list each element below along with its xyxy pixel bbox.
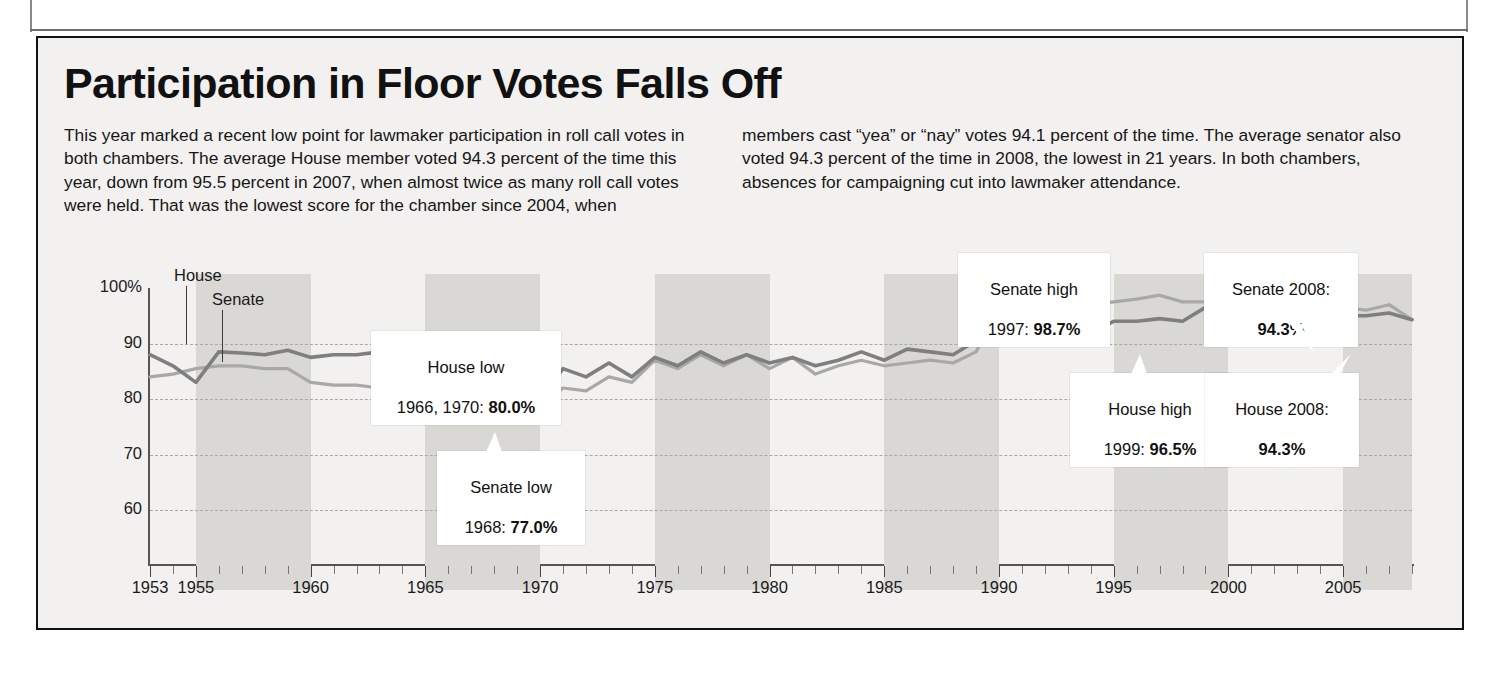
callout-house-2008-value: 94.3% [1259,440,1306,458]
x-tick-1999 [1205,566,1206,574]
callout-house-low: House low 1966, 1970: 80.0% [371,331,561,425]
x-tick-2007 [1389,566,1390,574]
x-tick-1989 [976,566,977,574]
x-tick-1969 [517,566,518,574]
x-tick-1977 [701,566,702,574]
x-tick-2008 [1412,566,1413,574]
x-tick-1970 [540,566,541,577]
x-tick-2004 [1320,566,1321,574]
callout-house-low-line2-prefix: 1966, 1970: [397,398,489,416]
x-label-1995: 1995 [1095,578,1132,597]
x-tick-1973 [609,566,610,574]
x-label-1970: 1970 [522,578,559,597]
y-tick-80: 80 [124,388,142,407]
callout-senate-low-line2-prefix: 1968: [465,518,511,536]
x-tick-1975 [655,566,656,577]
y-tick-70: 70 [124,444,142,463]
x-label-2000: 2000 [1210,578,1247,597]
x-tick-1991 [1022,566,1023,574]
x-tick-1988 [953,566,954,574]
page-left-rule [30,0,32,32]
callout-house-high-value: 96.5% [1150,440,1197,458]
x-tick-1987 [930,566,931,574]
x-tick-1953 [150,566,151,577]
x-tick-2002 [1274,566,1275,574]
x-tick-1982 [815,566,816,574]
x-tick-1978 [724,566,725,574]
x-tick-1967 [471,566,472,574]
callout-house-2008-line1: House 2008: [1235,400,1329,418]
callout-senate-high: Senate high 1997: 98.7% [958,253,1110,347]
y-tick-90: 90 [124,333,142,352]
callout-senate-low: Senate low 1968: 77.0% [437,451,585,545]
x-tick-1960 [311,566,312,577]
x-tick-1965 [425,566,426,577]
x-tick-1997 [1160,566,1161,574]
callout-senate-low-value: 77.0% [511,518,558,536]
x-tick-1990 [999,566,1000,577]
x-tick-1954 [173,566,174,574]
callout-house-low-line1: House low [427,358,504,376]
x-label-1955: 1955 [178,578,215,597]
x-tick-1955 [196,566,197,577]
callout-senate-high-tail [1019,307,1035,327]
x-tick-1968 [494,566,495,574]
x-tick-1976 [678,566,679,574]
x-tick-1993 [1068,566,1069,574]
x-label-1980: 1980 [751,578,788,597]
x-tick-2005 [1343,566,1344,577]
graphic-frame: Participation in Floor Votes Falls Off T… [36,36,1464,630]
page-top-rule [30,29,1468,31]
deck-paragraph-left: This year marked a recent low point for … [64,124,704,217]
x-label-2005: 2005 [1325,578,1362,597]
x-tick-1961 [334,566,335,574]
x-tick-2006 [1366,566,1367,574]
x-tick-2003 [1297,566,1298,574]
deck-paragraph-right: members cast “yea” or “nay” votes 94.1 p… [742,124,1402,194]
callout-senate-high-value: 98.7% [1034,320,1081,338]
callout-senate-low-line1: Senate low [470,478,552,496]
x-tick-2001 [1251,566,1252,574]
x-tick-1995 [1114,566,1115,577]
x-tick-1985 [884,566,885,577]
x-tick-1959 [288,566,289,574]
x-tick-1998 [1183,566,1184,574]
page-right-rule [1466,0,1468,32]
x-tick-1966 [448,566,449,574]
callout-senate-2008-tail [1274,305,1320,355]
x-tick-1964 [402,566,403,574]
x-tick-1980 [770,566,771,577]
house-leader-line [186,286,187,344]
x-tick-1958 [265,566,266,574]
x-tick-1984 [861,566,862,574]
x-tick-1992 [1045,566,1046,574]
x-label-1953: 1953 [132,578,169,597]
callout-house-high-tail [1131,354,1147,374]
series-label-house: House [174,266,222,285]
x-tick-1956 [219,566,220,574]
x-label-1960: 1960 [292,578,329,597]
x-tick-1963 [379,566,380,574]
x-tick-1974 [632,566,633,574]
x-label-1965: 1965 [407,578,444,597]
x-label-1985: 1985 [866,578,903,597]
x-tick-2000 [1228,566,1229,577]
callout-house-high-line2-prefix: 1999: [1104,440,1150,458]
series-label-senate: Senate [212,290,264,309]
x-tick-1971 [563,566,564,574]
x-label-1975: 1975 [636,578,673,597]
callout-senate-high-line1: Senate high [990,280,1078,298]
callout-house-high-line1: House high [1108,400,1191,418]
infographic-page: Participation in Floor Votes Falls Off T… [0,0,1497,674]
x-tick-1972 [586,566,587,574]
callout-house-low-tail [446,385,462,405]
callout-senate-2008-line1: Senate 2008: [1232,280,1330,298]
y-tick-60: 60 [124,499,142,518]
y-axis-labels: 100% 90 80 70 60 [64,266,142,606]
callout-house-low-value: 80.0% [488,398,535,416]
x-tick-1979 [747,566,748,574]
x-tick-1983 [838,566,839,574]
x-tick-1957 [242,566,243,574]
x-tick-1994 [1091,566,1092,574]
callout-house-2008-tail [1307,354,1357,394]
